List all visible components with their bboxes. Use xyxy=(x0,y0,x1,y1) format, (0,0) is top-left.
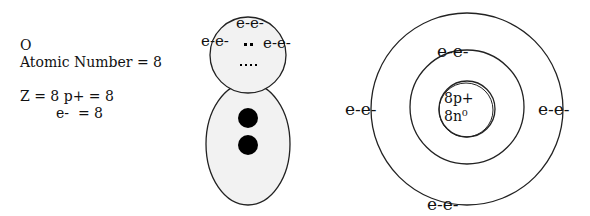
inner-shell-electrons: e-e- xyxy=(437,41,469,61)
dot xyxy=(244,43,247,46)
nucleus-neutrons: 8n⁰ xyxy=(444,108,468,124)
diagram-canvas: e-e- e-e- e-e- 8p+ 8n⁰ e-e- e-e- e-e- e-… xyxy=(0,0,590,216)
outer-right-electrons: e-e- xyxy=(538,99,570,119)
label-top-left: e-e- xyxy=(201,32,229,50)
outer-left-electrons: e-e- xyxy=(345,99,377,119)
dot xyxy=(250,43,253,46)
electron-dot xyxy=(238,108,258,128)
electron-dot xyxy=(238,135,258,155)
lewis-figure: e-e- e-e- e-e- xyxy=(201,14,291,205)
outer-bottom-electrons: e-e- xyxy=(427,194,459,214)
nucleus-protons: 8p+ xyxy=(444,90,474,106)
inner-shell xyxy=(410,50,524,164)
label-top-right: e-e- xyxy=(263,34,291,52)
label-top: e-e- xyxy=(236,14,264,32)
bohr-model: 8p+ 8n⁰ e-e- e-e- e-e- e-e- xyxy=(345,13,570,214)
